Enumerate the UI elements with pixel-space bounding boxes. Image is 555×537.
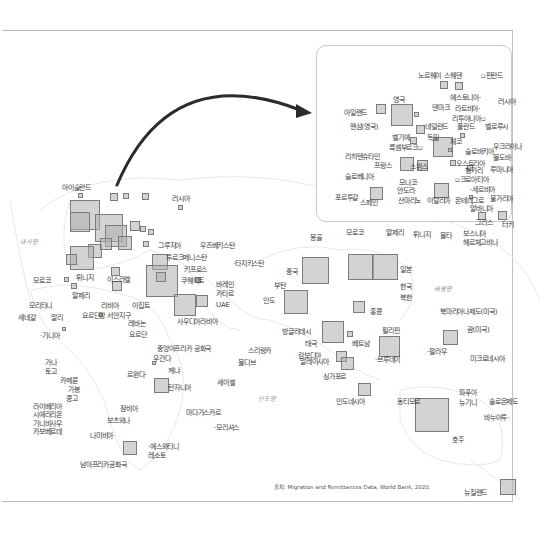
country-label: ·세르비아 xyxy=(470,186,495,194)
country-label: 모리타니 xyxy=(29,302,52,310)
value-square xyxy=(178,205,183,210)
value-square xyxy=(70,212,90,232)
country-label: 이스라엘 xyxy=(107,276,130,284)
country-label: 인도네시아 xyxy=(336,398,365,406)
country-label: 뉴질랜드 xyxy=(464,489,487,497)
country-label: ·타지키스탄 xyxy=(233,260,264,268)
country-label: 벨로루시 xyxy=(485,123,508,131)
country-label: 영국 xyxy=(393,96,405,104)
country-label: ·팔라우 xyxy=(427,348,446,356)
value-square xyxy=(140,226,146,232)
value-square xyxy=(123,441,137,455)
value-square xyxy=(302,257,329,284)
country-label: 맨섬(영국) xyxy=(350,123,378,131)
country-label: 라이베리아 xyxy=(33,403,62,411)
country-label: 세네갈 xyxy=(18,314,35,322)
country-label: 불가리아 xyxy=(490,195,513,203)
country-label: 폴란드 xyxy=(457,123,474,131)
country-label: 프랑스 xyxy=(374,162,391,170)
country-label: 미크로네시아 xyxy=(470,355,505,363)
country-label: 그리스 xyxy=(475,219,492,227)
country-label: 몰디브 xyxy=(238,359,255,367)
value-square xyxy=(498,211,507,220)
value-square xyxy=(142,193,149,200)
ocean-label: 태평양 xyxy=(434,285,451,293)
country-label: 탄자니아 xyxy=(168,384,191,392)
country-label: ·모리셔스 xyxy=(214,424,239,432)
value-square xyxy=(455,82,463,90)
country-label: 세이셸 xyxy=(217,379,234,387)
source-caption: 출처: Migration and Remittances Data, Worl… xyxy=(274,483,431,491)
country-label: 괌(미국) xyxy=(467,326,489,334)
country-label: 몽골 xyxy=(310,234,322,242)
country-label: ▫크로아티아 xyxy=(455,176,489,184)
country-label: 카메룬 xyxy=(60,377,77,385)
country-label: 체코 xyxy=(450,138,462,146)
country-label: 르완다· xyxy=(127,371,146,379)
value-square xyxy=(358,383,371,396)
country-label: 콩고 xyxy=(66,395,78,403)
country-label: 알바니아 xyxy=(470,205,493,213)
country-label: 몰도바 xyxy=(493,154,510,162)
ocean-label: 인도양 xyxy=(258,395,275,403)
country-label: 스웨덴 xyxy=(444,72,461,80)
country-label: ·에스와티니 xyxy=(148,443,179,451)
country-label: 기니비사우 xyxy=(33,420,62,428)
value-square xyxy=(100,238,112,250)
country-label: 스위스 xyxy=(410,163,427,171)
country-label: 리투아니아▫ xyxy=(452,115,486,123)
value-square xyxy=(500,479,516,495)
country-label: 마다가스카르 xyxy=(186,409,221,417)
value-square xyxy=(448,148,452,152)
country-label: 독일 xyxy=(427,134,439,142)
country-label: ·브루네이 xyxy=(375,356,400,364)
value-square xyxy=(379,336,400,357)
country-label: 우간다 xyxy=(153,355,170,363)
country-label: 토고 xyxy=(45,368,57,376)
value-square xyxy=(174,294,196,316)
country-label: 몰타 xyxy=(440,232,452,240)
country-label: 스페인 xyxy=(360,199,377,207)
country-label: 카타르 xyxy=(216,290,233,298)
country-label: 그루지아 xyxy=(158,242,181,250)
country-label: 헝가리 xyxy=(465,167,482,175)
country-label: 뉴기니 xyxy=(459,399,476,407)
country-label: 에스토니아· xyxy=(450,94,481,102)
country-label: 헤르체고비나 xyxy=(463,239,498,247)
country-label: 말레이시아 xyxy=(300,358,329,366)
country-label: 스리랑카 xyxy=(248,347,271,355)
country-label: 루마니아 xyxy=(490,166,513,174)
country-label: 가나 xyxy=(45,359,57,367)
value-square xyxy=(434,183,449,198)
country-label: 룩셈부르크▫ xyxy=(389,144,423,152)
country-label: 키프로스 xyxy=(184,266,207,274)
value-square xyxy=(284,290,308,314)
country-label: ·기니아 xyxy=(40,332,59,340)
country-label: 몬테네그로 xyxy=(455,197,484,205)
country-label: 벨기에 xyxy=(392,134,409,142)
country-label: 투르크메니스탄 xyxy=(166,254,207,262)
country-label: 남아프리카공화국 xyxy=(80,461,126,469)
country-label: 라트비아· xyxy=(455,105,480,113)
country-label: 노르웨이 xyxy=(418,72,441,80)
value-square xyxy=(118,236,132,250)
country-label: 모로코 xyxy=(346,229,363,237)
country-label: 인도 xyxy=(263,297,275,305)
value-square xyxy=(376,104,386,114)
country-label: 북한 xyxy=(400,294,412,302)
ocean-label: 대서양 xyxy=(20,238,37,246)
country-label: 한국 xyxy=(400,283,412,291)
value-square xyxy=(154,378,169,393)
value-square xyxy=(111,267,120,276)
country-label: 북마리아나제도(미국) xyxy=(440,308,497,316)
country-label: 터키 xyxy=(502,221,514,229)
value-square xyxy=(416,125,425,134)
value-square xyxy=(130,221,140,231)
country-label: 나미비아 xyxy=(90,432,113,440)
country-label: 요르단강 서안지구 xyxy=(82,312,130,320)
country-label: 중국 xyxy=(286,268,298,276)
country-label: 모나코· xyxy=(399,179,418,187)
country-label: 바누아투· xyxy=(484,414,509,422)
country-label: 아이슬란드 xyxy=(62,184,91,192)
value-square xyxy=(71,283,77,289)
